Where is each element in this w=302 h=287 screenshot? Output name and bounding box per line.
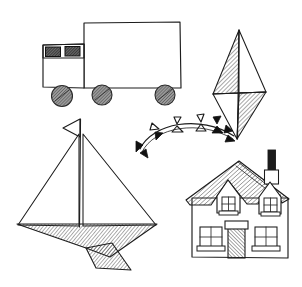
kite-tail-bow-1 <box>136 141 148 158</box>
house-window-left <box>197 227 225 251</box>
kite-body <box>213 30 266 139</box>
sailboat-fore-sail <box>18 134 79 226</box>
kite-tail <box>136 114 235 158</box>
sketch-svg <box>0 0 302 287</box>
kite-quadrant-lower-right <box>237 92 266 139</box>
truck-wheel-rear <box>155 85 175 105</box>
sailboat-main-sail <box>83 134 156 226</box>
house-window-right <box>252 227 280 251</box>
sailboat-hull <box>17 224 157 257</box>
truck-window-left <box>46 47 61 57</box>
truck-wheel-middle <box>92 85 112 105</box>
house-chimney <box>265 150 279 184</box>
house-front-door <box>225 221 248 258</box>
kite-quadrant-upper-left <box>213 30 239 94</box>
house-group <box>186 150 289 258</box>
kite-quadrant-upper-right <box>239 30 266 93</box>
sailboat-pennant-flag <box>63 119 80 137</box>
sketch-canvas <box>0 0 302 287</box>
truck-group <box>43 22 181 107</box>
truck-wheel-front <box>52 86 73 107</box>
truck-cargo-box <box>84 22 181 88</box>
truck-window-right <box>65 47 80 57</box>
kite-tail-bow-5 <box>212 116 223 133</box>
